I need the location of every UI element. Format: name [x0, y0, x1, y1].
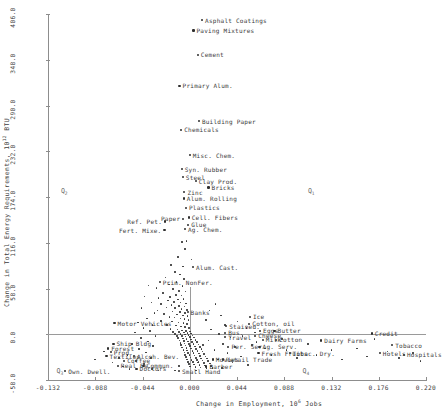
- point-label: Asphalt Coatings: [205, 17, 267, 24]
- labeled-data-point: [254, 335, 256, 337]
- labeled-data-point: [180, 129, 182, 131]
- data-point: [141, 307, 143, 309]
- point-label: Cell. Fibers: [192, 214, 238, 221]
- data-point: [186, 338, 188, 340]
- y-tick-label: 0.0: [9, 332, 16, 344]
- data-point: [185, 345, 187, 347]
- point-label: Doctors: [140, 365, 167, 372]
- data-point: [195, 339, 197, 341]
- quadrant-label-index: 1: [312, 191, 315, 196]
- labeled-data-point: [371, 332, 373, 334]
- data-point: [203, 353, 205, 355]
- data-point: [184, 248, 186, 250]
- y-tick: [46, 197, 50, 198]
- data-point: [189, 345, 191, 347]
- data-point: [155, 335, 157, 337]
- point-label: Prim. NonFer.: [163, 279, 213, 286]
- data-point: [366, 356, 368, 358]
- data-point: [193, 352, 195, 354]
- labeled-data-point: [105, 355, 107, 357]
- labeled-data-point: [113, 322, 115, 324]
- data-point: [185, 336, 187, 338]
- labeled-data-point: [185, 207, 187, 209]
- data-point: [177, 337, 179, 339]
- data-point: [174, 307, 176, 309]
- labeled-data-point: [227, 346, 229, 348]
- data-point: [184, 352, 186, 354]
- point-label: Alum. Cast.: [196, 264, 239, 271]
- data-point: [180, 344, 182, 346]
- data-point: [176, 335, 178, 337]
- data-point: [181, 330, 183, 332]
- data-point: [190, 348, 192, 350]
- data-point: [296, 357, 298, 359]
- data-point: [186, 359, 188, 361]
- x-tick: [237, 377, 238, 381]
- data-point: [182, 315, 184, 317]
- quadrant-label: Q2: [61, 187, 68, 196]
- data-point: [192, 361, 194, 363]
- data-point: [199, 346, 201, 348]
- data-point: [172, 311, 174, 313]
- labeled-data-point: [117, 365, 119, 367]
- data-point: [178, 305, 180, 307]
- data-point: [154, 312, 156, 314]
- data-point: [188, 343, 190, 345]
- y-axis-title-main: Change in Total Energy Requirements, 10: [3, 141, 11, 307]
- point-label: Small Hand: [182, 368, 221, 375]
- labeled-data-point: [257, 352, 259, 354]
- labeled-data-point: [198, 120, 200, 122]
- data-point: [197, 350, 199, 352]
- y-tick: [46, 289, 50, 290]
- data-point: [198, 353, 200, 355]
- data-point: [170, 264, 172, 266]
- data-point: [203, 362, 205, 364]
- y-axis-title-exponent: 12: [2, 135, 7, 141]
- labeled-data-point: [163, 229, 165, 231]
- data-point: [194, 355, 196, 357]
- data-point: [103, 351, 105, 353]
- y-tick: [46, 106, 50, 107]
- data-point: [169, 316, 171, 318]
- point-label: Plastics: [189, 204, 220, 211]
- labeled-data-point: [201, 19, 203, 21]
- data-point: [179, 340, 181, 342]
- data-point: [178, 365, 180, 367]
- data-point: [207, 360, 209, 362]
- x-tick-label: 0.132: [321, 384, 341, 391]
- y-axis-title-tail: BTU: [3, 118, 11, 135]
- x-axis-title: Change in Employment, 106 Jobs: [196, 399, 322, 408]
- data-point: [186, 347, 188, 349]
- data-point: [208, 340, 210, 342]
- data-point: [181, 295, 183, 297]
- labeled-data-point: [320, 339, 322, 341]
- data-point: [184, 306, 186, 308]
- data-point: [180, 326, 182, 328]
- data-point: [189, 336, 191, 338]
- point-label: Tobacco: [395, 342, 422, 349]
- labeled-data-point: [183, 191, 185, 193]
- data-point: [247, 364, 249, 366]
- point-label: Bricks: [212, 184, 235, 191]
- data-point: [254, 332, 256, 334]
- data-point: [183, 349, 185, 351]
- labeled-data-point: [188, 216, 190, 218]
- point-label: Motor Vehicles: [118, 320, 172, 327]
- data-point: [160, 303, 162, 305]
- data-point: [202, 360, 204, 362]
- point-label: Cement: [201, 51, 224, 58]
- labeled-data-point: [178, 85, 180, 87]
- data-point: [180, 302, 182, 304]
- data-point: [138, 348, 140, 350]
- quadrant-label-index: 4: [306, 371, 309, 376]
- data-point: [182, 338, 184, 340]
- point-label: Paving Mixtures: [197, 27, 255, 34]
- quadrant-label: Q1: [308, 187, 315, 196]
- point-label: Credit: [375, 330, 398, 337]
- data-point: [178, 322, 180, 324]
- x-tick-label: 0.220: [416, 384, 436, 391]
- data-point: [174, 317, 176, 319]
- labeled-data-point: [212, 358, 214, 360]
- quadrant-label: Q3: [57, 367, 64, 376]
